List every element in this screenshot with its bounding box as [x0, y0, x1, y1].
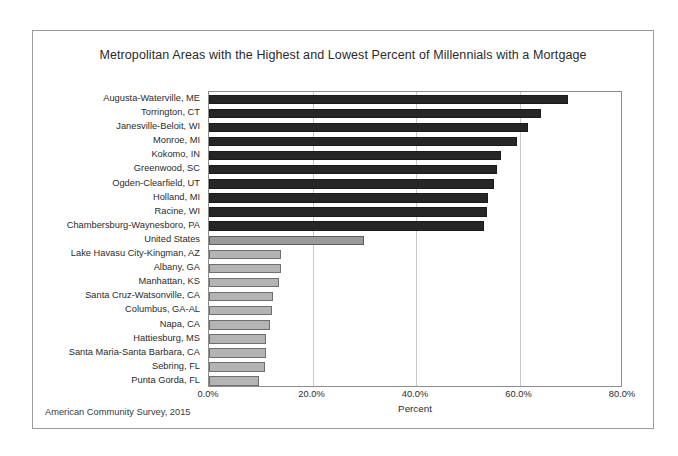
bar — [209, 376, 259, 385]
bar — [209, 348, 266, 357]
category-label: Greenwood, SC — [134, 161, 200, 176]
category-label: Kokomo, IN — [151, 147, 200, 162]
bar — [209, 292, 273, 301]
bar-row — [209, 191, 621, 206]
chart-title: Metropolitan Areas with the Highest and … — [93, 47, 593, 63]
bar — [209, 236, 364, 245]
source-note: American Community Survey, 2015 — [45, 407, 191, 417]
bar-row — [209, 92, 621, 107]
bar — [209, 264, 281, 273]
bar-row — [209, 162, 621, 177]
category-label: Racine, WI — [155, 204, 200, 219]
category-label: Augusta-Waterville, ME — [103, 91, 200, 106]
bar — [209, 278, 279, 287]
category-label: Manhattan, KS — [138, 274, 200, 289]
bar-row — [209, 247, 621, 262]
bar-row — [209, 374, 621, 389]
category-label: Santa Cruz-Watsonville, CA — [85, 288, 200, 303]
category-label: Sebring, FL — [152, 359, 200, 374]
category-label: Hattiesburg, MS — [133, 331, 200, 346]
bar-row — [209, 106, 621, 121]
bar-row — [209, 233, 621, 248]
x-tick-label: 60.0% — [505, 389, 531, 399]
bar — [209, 179, 494, 188]
category-label: Columbus, GA-AL — [125, 302, 200, 317]
bar-row — [209, 134, 621, 149]
bar — [209, 362, 265, 371]
x-axis-tick-labels: 0.0%20.0%40.0%60.0%80.0% — [208, 389, 622, 403]
bar-row — [209, 261, 621, 276]
chart-frame: Metropolitan Areas with the Highest and … — [32, 30, 654, 429]
x-tick-label: 40.0% — [402, 389, 428, 399]
bar-row — [209, 177, 621, 192]
bar — [209, 109, 541, 118]
bar-row — [209, 275, 621, 290]
category-label: Torrington, CT — [141, 105, 200, 120]
category-label: Albany, GA — [154, 260, 200, 275]
category-label: Lake Havasu City-Kingman, AZ — [71, 246, 200, 261]
bar — [209, 165, 497, 174]
x-tick-label: 80.0% — [609, 389, 635, 399]
bar — [209, 320, 270, 329]
bar-row — [209, 360, 621, 375]
bar-row — [209, 289, 621, 304]
category-label: Holland, MI — [153, 190, 200, 205]
bar-row — [209, 120, 621, 135]
bar-row — [209, 303, 621, 318]
category-label: Napa, CA — [160, 317, 200, 332]
y-axis-category-labels: Augusta-Waterville, METorrington, CTJane… — [33, 91, 204, 387]
bar — [209, 151, 501, 160]
x-tick-label: 20.0% — [298, 389, 324, 399]
category-label: Chambersburg-Waynesboro, PA — [67, 218, 200, 233]
bar-row — [209, 332, 621, 347]
bar — [209, 334, 266, 343]
category-label: Janesville-Beloit, WI — [116, 119, 200, 134]
category-label: Monroe, MI — [153, 133, 200, 148]
bar — [209, 250, 281, 259]
category-label: United States — [144, 232, 200, 247]
bar — [209, 306, 272, 315]
bar — [209, 123, 528, 132]
category-label: Santa Maria-Santa Barbara, CA — [69, 345, 200, 360]
bar-row — [209, 318, 621, 333]
bar-series — [209, 92, 621, 386]
category-label: Punta Gorda, FL — [131, 373, 200, 388]
bar — [209, 207, 487, 216]
x-axis-title: Percent — [208, 403, 622, 414]
bar-row — [209, 346, 621, 361]
bar — [209, 221, 484, 230]
x-tick-label: 0.0% — [197, 389, 218, 399]
bar-row — [209, 219, 621, 234]
plot-area — [208, 91, 622, 387]
category-label: Ogden-Clearfield, UT — [112, 176, 200, 191]
bar — [209, 193, 488, 202]
bar — [209, 95, 568, 104]
bar-row — [209, 148, 621, 163]
bar-row — [209, 205, 621, 220]
bar — [209, 137, 517, 146]
